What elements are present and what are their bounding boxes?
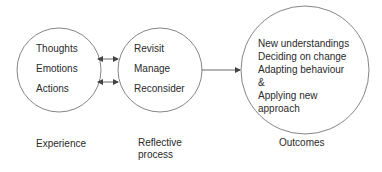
- outcomes-item-new-understandings: New understandings: [258, 37, 349, 50]
- outcomes-item-ampersand: &: [258, 76, 349, 89]
- outcomes-item-applying-new: Applying new: [258, 89, 349, 102]
- outcomes-caption: Outcomes: [279, 137, 325, 149]
- experience-caption: Experience: [36, 138, 86, 150]
- outcomes-item-deciding-on-change: Deciding on change: [258, 50, 349, 63]
- reflective-item-revisit: Revisit: [134, 44, 164, 54]
- reflective-item-reconsider: Reconsider: [134, 84, 185, 94]
- outcomes-item-approach: approach: [258, 102, 349, 115]
- reflective-item-manage: Manage: [134, 64, 170, 74]
- reflective-caption-line1: Reflective: [138, 137, 182, 149]
- outcomes-item-adapting-behaviour: Adapting behaviour: [258, 63, 349, 76]
- experience-item-thoughts: Thoughts: [36, 44, 78, 54]
- experience-item-actions: Actions: [36, 84, 69, 94]
- experience-item-emotions: Emotions: [36, 64, 78, 74]
- reflective-caption-line2: process: [138, 149, 173, 161]
- outcomes-list: New understandings Deciding on change Ad…: [258, 37, 349, 115]
